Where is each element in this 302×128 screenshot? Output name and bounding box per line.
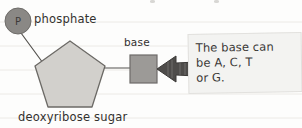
- callout-text: The base can be A, C, T or G.: [196, 39, 301, 86]
- phosphate-label: phosphate: [34, 12, 97, 26]
- phosphate-sugar-bond: [21, 33, 43, 63]
- callout-line-2: be A, C, T: [196, 54, 300, 71]
- phosphate-circle: [5, 8, 31, 34]
- base-square: [130, 55, 157, 83]
- callout-line-3: or G.: [196, 69, 300, 86]
- callout-line-1: The base can: [196, 39, 300, 56]
- deoxyribose-pentagon: [35, 41, 105, 107]
- base-label: base: [124, 36, 150, 48]
- nucleotide-diagram: P phosphate base deoxyribose sugar The b…: [0, 0, 302, 128]
- deoxyribose-sugar-label: deoxyribose sugar: [18, 110, 127, 124]
